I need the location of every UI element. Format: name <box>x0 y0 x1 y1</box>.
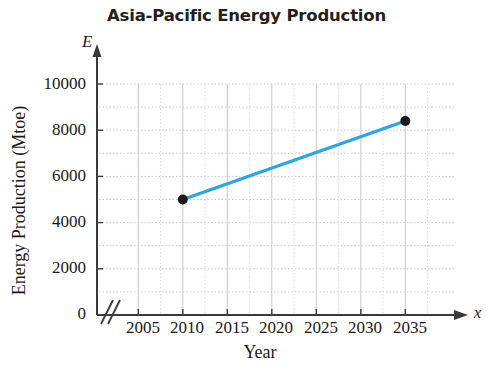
chart-figure: Asia-Pacific Energy Production Energy Pr… <box>0 0 493 375</box>
x-axis-break-slash-1 <box>101 300 113 324</box>
y-axis-arrowhead <box>93 44 102 57</box>
x-axis-arrowhead <box>454 310 468 320</box>
x-axis-break-slash-2 <box>108 300 120 324</box>
data-series <box>178 116 410 205</box>
plot-area <box>0 0 493 375</box>
